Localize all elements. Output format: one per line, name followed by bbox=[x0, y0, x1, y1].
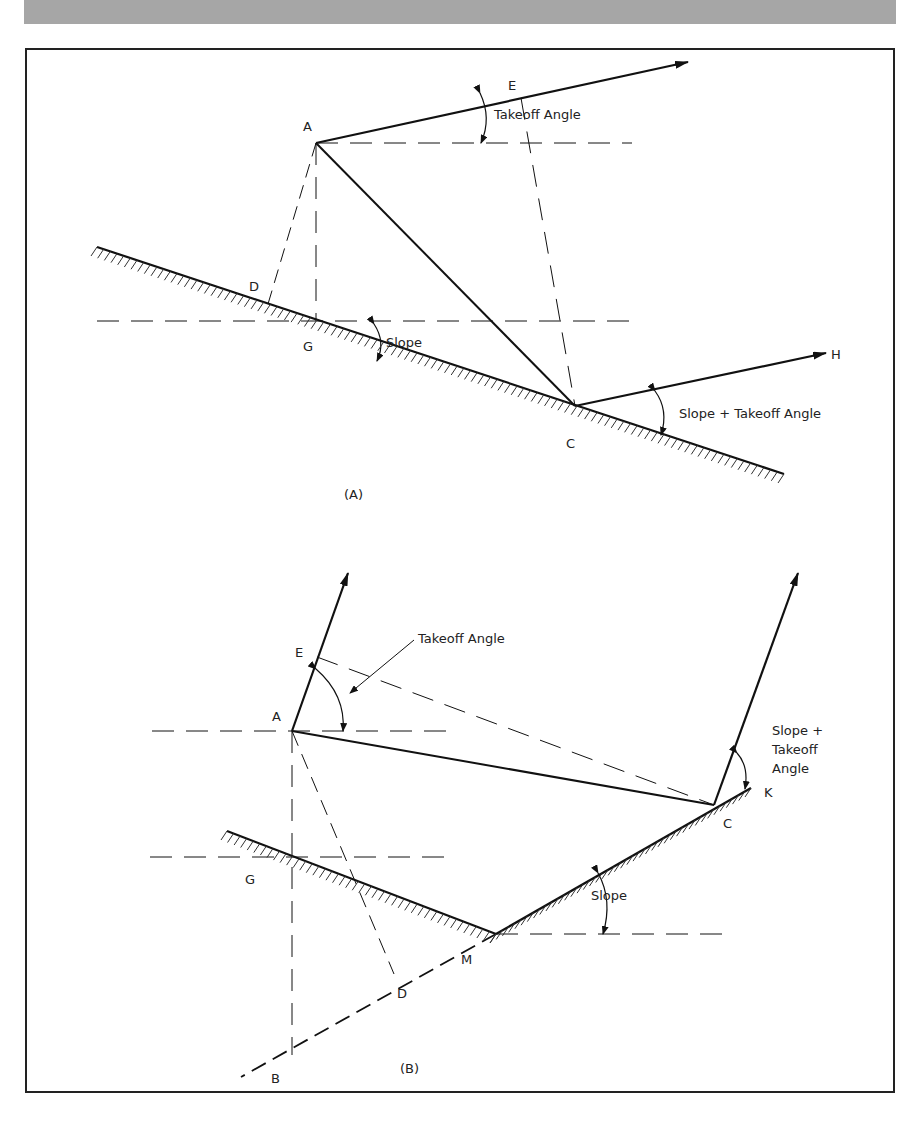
annotation-takeoff-angle-b: Takeoff Angle bbox=[417, 631, 505, 646]
label-b-C: C bbox=[723, 816, 732, 831]
annotation-slope-takeoff-b-line1: Slope + bbox=[772, 723, 823, 738]
label-a-C: C bbox=[566, 436, 575, 451]
label-b-D: D bbox=[397, 986, 407, 1001]
diagram: /* placeholder */ bbox=[0, 0, 919, 1133]
ground-line-b-left bbox=[227, 831, 496, 934]
label-b-G: G bbox=[245, 872, 255, 887]
annotation-takeoff-angle-a: Takeoff Angle bbox=[493, 107, 581, 122]
annotation-slope-b: Slope bbox=[591, 888, 627, 903]
label-a-D: D bbox=[249, 279, 259, 294]
label-a-A: A bbox=[303, 119, 312, 134]
caption-b: (B) bbox=[400, 1061, 419, 1076]
annotation-slope-takeoff-a: Slope + Takeoff Angle bbox=[679, 406, 821, 421]
annotation-slope-a: Slope bbox=[386, 335, 422, 350]
label-b-E: E bbox=[295, 645, 303, 660]
label-b-M: M bbox=[461, 952, 472, 967]
label-a-E: E bbox=[508, 78, 516, 93]
label-b-A: A bbox=[272, 709, 281, 724]
label-b-B: B bbox=[271, 1071, 280, 1086]
ground-line-a bbox=[97, 247, 784, 474]
label-a-G: G bbox=[303, 339, 313, 354]
label-a-H: H bbox=[831, 347, 841, 362]
ground-hatching bbox=[91, 247, 784, 943]
annotation-slope-takeoff-b-line3: Angle bbox=[772, 761, 809, 776]
annotation-slope-takeoff-b-line2: Takeoff bbox=[771, 742, 819, 757]
caption-a: (A) bbox=[344, 487, 363, 502]
panel-b bbox=[150, 573, 798, 1077]
label-b-K: K bbox=[764, 785, 773, 800]
